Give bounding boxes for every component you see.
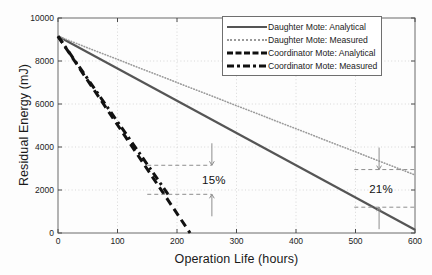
legend-label: Coordinator Mote: Analytical (268, 47, 375, 59)
chart-legend: Daughter Mote: Analytical Daughter Mote:… (222, 16, 382, 76)
legend-key-solid-line-icon (226, 21, 268, 33)
legend-label: Daughter Mote: Measured (268, 34, 368, 46)
legend-key-dotted-line-icon (226, 34, 268, 46)
legend-item-coordinator-measured: Coordinator Mote: Measured (226, 59, 377, 72)
legend-label: Coordinator Mote: Measured (268, 60, 377, 72)
legend-label: Daughter Mote: Analytical (268, 21, 366, 33)
annotation-label: 21% (369, 183, 393, 195)
chart-figure: Residual Energy (mJ) Operation Life (hou… (0, 0, 432, 275)
legend-item-daughter-analytical: Daughter Mote: Analytical (226, 20, 377, 33)
legend-key-dashed-line-icon (226, 47, 268, 59)
legend-item-coordinator-analytical: Coordinator Mote: Analytical (226, 46, 377, 59)
legend-key-dashdot-line-icon (226, 60, 268, 72)
legend-item-daughter-measured: Daughter Mote: Measured (226, 33, 377, 46)
annotation-label: 15% (202, 174, 226, 186)
